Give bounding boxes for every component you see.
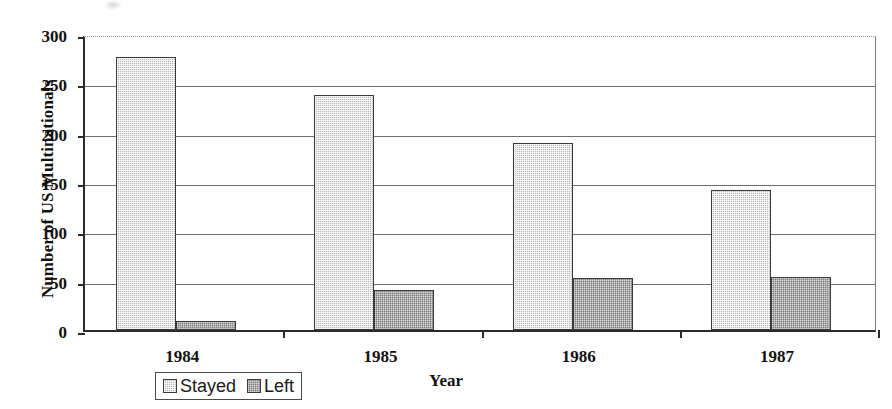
gridline <box>85 185 875 186</box>
y-axis-tick-mark <box>78 333 85 335</box>
plot-area <box>83 36 876 332</box>
y-axis-tick-mark <box>78 86 85 88</box>
x-axis-tick-mark <box>680 330 682 338</box>
gridline <box>85 86 875 87</box>
bar-stayed-1985 <box>314 95 374 330</box>
scan-artifact-smudge <box>104 0 122 10</box>
x-axis-tick-label: 1986 <box>519 347 639 367</box>
bar-stayed-1986 <box>513 143 573 330</box>
legend-label: Left <box>264 377 294 395</box>
x-axis-tick-mark <box>283 330 285 338</box>
gridline <box>85 136 875 137</box>
y-axis-tick-mark <box>78 136 85 138</box>
x-axis-tick-label: 1984 <box>122 347 242 367</box>
x-axis-tick-mark <box>482 330 484 338</box>
y-axis-tick-mark <box>78 234 85 236</box>
legend-item-left: Left <box>247 377 294 395</box>
legend-label: Stayed <box>180 377 236 395</box>
bar-stayed-1987 <box>711 190 771 330</box>
bar-left-1986 <box>573 278 633 330</box>
legend-swatch-stayed-icon <box>163 379 177 393</box>
bar-left-1984 <box>176 321 236 330</box>
y-axis-tick-mark <box>78 185 85 187</box>
bar-left-1987 <box>771 277 831 330</box>
y-axis-tick-label: 300 <box>7 28 67 45</box>
y-axis-tick-label: 150 <box>7 176 67 193</box>
bar-left-1985 <box>374 290 434 330</box>
x-axis-tick-label: 1985 <box>320 347 440 367</box>
x-axis-tick-mark <box>878 330 880 338</box>
legend-swatch-left-icon <box>247 379 261 393</box>
bar-chart-figure: Number of US Multinationals 050100150200… <box>0 0 892 409</box>
y-axis-tick-label: 100 <box>7 225 67 242</box>
y-axis-tick-mark <box>78 37 85 39</box>
y-axis-tick-label: 250 <box>7 77 67 94</box>
y-axis-tick-label: 50 <box>7 274 67 291</box>
y-axis-tick-label: 0 <box>7 324 67 341</box>
bar-stayed-1984 <box>116 57 176 330</box>
y-axis-tick-mark <box>78 284 85 286</box>
x-axis-tick-label: 1987 <box>717 347 837 367</box>
x-axis-title: Year <box>0 371 892 391</box>
chart-legend: StayedLeft <box>155 372 302 400</box>
y-axis-tick-label: 200 <box>7 126 67 143</box>
legend-item-stayed: Stayed <box>163 377 236 395</box>
